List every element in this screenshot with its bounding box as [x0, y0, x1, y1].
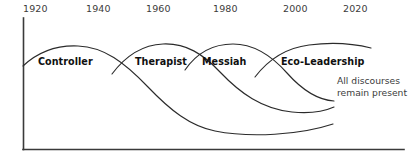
x-tick-label-2020: 2020 — [343, 3, 368, 14]
annotation-line-1: All discourses — [337, 75, 400, 86]
annotation-line-2: remain present — [337, 87, 407, 98]
wave-label-eco-leadership: Eco-Leadership — [281, 56, 364, 67]
wave-label-therapist: Therapist — [135, 56, 187, 67]
x-tick-label-1920: 1920 — [23, 3, 48, 14]
wave-label-messiah: Messiah — [202, 56, 247, 67]
wave-curve-therapist — [112, 44, 334, 113]
x-tick-label-1980: 1980 — [213, 3, 238, 14]
discourse-timeline-figure: 1920 1940 1960 1980 2000 2020 Controller… — [0, 0, 409, 157]
x-tick-label-1940: 1940 — [86, 3, 111, 14]
wave-label-controller: Controller — [38, 56, 93, 67]
x-tick-label-1960: 1960 — [146, 3, 171, 14]
wave-curve-messiah — [185, 44, 334, 101]
x-tick-label-2000: 2000 — [283, 3, 308, 14]
chart-canvas: 1920 1940 1960 1980 2000 2020 Controller… — [0, 0, 409, 157]
